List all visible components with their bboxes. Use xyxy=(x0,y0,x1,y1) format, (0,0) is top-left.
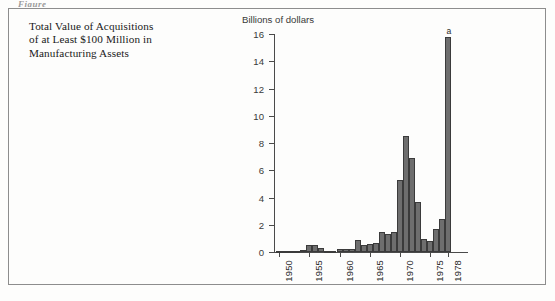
y-axis-tick xyxy=(269,170,275,171)
y-axis-tick xyxy=(269,198,275,199)
x-axis-tick-label: 1965 xyxy=(374,260,385,282)
x-axis-tick xyxy=(430,253,431,257)
y-axis-tick-label: 14 xyxy=(253,56,264,67)
x-axis-tick xyxy=(309,253,310,257)
x-axis-tick-label: 1975 xyxy=(434,260,445,282)
x-axis-tick-label: 1955 xyxy=(313,260,324,282)
y-axis-tick-label: 4 xyxy=(259,192,264,203)
x-axis-tick xyxy=(279,253,280,257)
x-axis-line xyxy=(274,252,468,253)
x-axis-tick xyxy=(400,253,401,257)
x-axis-tick xyxy=(340,253,341,257)
y-axis-tick xyxy=(269,225,275,226)
bar-chart: Billions of dollars 0246810121416 195019… xyxy=(228,12,528,297)
figure-title-line-3: Manufacturing Assets xyxy=(29,47,209,60)
y-axis-tick-label: 0 xyxy=(259,247,264,258)
footnote-marker-a: a xyxy=(446,26,451,36)
y-axis-tick xyxy=(269,143,275,144)
x-axis-tick-label: 1950 xyxy=(283,260,294,282)
x-axis-tick-label: 1960 xyxy=(344,260,355,282)
figure-title-line-2: of at Least $100 Million in xyxy=(29,33,209,46)
x-axis-tick-label: 1970 xyxy=(404,260,415,282)
bar xyxy=(445,37,451,252)
figure-root: Figure Total Value of Acquisitions of at… xyxy=(0,0,555,301)
y-axis-tick-label: 10 xyxy=(253,110,264,121)
figure-title: Total Value of Acquisitions of at Least … xyxy=(29,20,209,60)
y-axis-tick xyxy=(269,89,275,90)
y-axis-tick-label: 8 xyxy=(259,138,264,149)
y-axis-tick-label: 12 xyxy=(253,83,264,94)
x-axis-tick xyxy=(370,253,371,257)
y-axis-tick xyxy=(269,252,275,253)
y-axis-tick-label: 16 xyxy=(253,29,264,40)
y-axis-tick xyxy=(269,34,275,35)
y-axis-tick xyxy=(269,61,275,62)
x-axis-tick xyxy=(448,253,449,257)
plot-region: 0246810121416 19501955196019651970197519… xyxy=(228,12,528,297)
y-axis-tick xyxy=(269,116,275,117)
y-axis-tick-label: 6 xyxy=(259,165,264,176)
x-axis-tick-label: 1978 xyxy=(452,260,463,282)
figure-caption-stub: Figure xyxy=(18,0,78,7)
figure-title-line-1: Total Value of Acquisitions xyxy=(29,20,209,33)
y-axis-tick-label: 2 xyxy=(259,219,264,230)
